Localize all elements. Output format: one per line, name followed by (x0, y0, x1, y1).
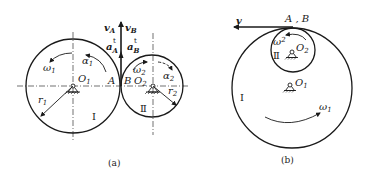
svg-text:r1: r1 (38, 94, 47, 107)
svg-text:vB: vB (125, 22, 137, 35)
point-B-label: B (123, 75, 131, 86)
O1-label: O (295, 77, 303, 88)
omega2-label: ω (273, 36, 281, 47)
omega2-arc-icon (286, 34, 306, 40)
gear1-outer-circle (232, 28, 352, 148)
omega1-arc-icon (50, 53, 72, 62)
gear1-roman-label: Ⅰ (92, 111, 96, 122)
aB-sup: t (134, 37, 137, 45)
point-A-label: A (107, 75, 115, 86)
O2-label: O (296, 42, 304, 53)
omega1-arc-icon (265, 113, 320, 123)
gear1-roman-label: Ⅰ (240, 92, 244, 103)
caption-a: (a) (108, 158, 120, 168)
caption-b: (b) (281, 155, 294, 165)
svg-text:ω1: ω1 (319, 101, 332, 114)
svg-text:O1: O1 (78, 73, 91, 86)
svg-text:ω2: ω2 (273, 36, 286, 47)
gear2-roman-label: Ⅱ (140, 103, 147, 114)
omega1-label: ω (43, 62, 51, 73)
aA-sup: t (113, 37, 116, 45)
gear-diagram: vA vB aA t aB t ω1 α1 O1 A B O2 ω2 α2 r1… (0, 0, 367, 177)
contact-AB-label: A , B (284, 13, 309, 24)
figure-a: vA vB aA t aB t ω1 α1 O1 A B O2 ω2 α2 r1… (17, 22, 190, 168)
svg-text:ω1: ω1 (43, 62, 56, 75)
figure-b: v A , B ω2 Ⅱ O2 O1 Ⅰ ω1 (b) (232, 13, 352, 165)
svg-text:O2: O2 (296, 42, 309, 55)
velocity-label: v (236, 15, 242, 26)
gear2-roman-label: Ⅱ (273, 50, 280, 61)
gear1-pivot-icon (65, 84, 80, 94)
O1-label: O (78, 73, 86, 84)
svg-text:O1: O1 (295, 77, 308, 90)
omega2-label: ω (133, 64, 141, 75)
omega1-label: ω (319, 101, 327, 112)
svg-text:vA: vA (104, 22, 116, 35)
svg-text:α2: α2 (163, 70, 175, 83)
alpha2-arc-icon (158, 62, 172, 70)
gear2-pivot-icon (145, 84, 160, 94)
tangential-accel-arrowhead (119, 51, 124, 58)
svg-text:r2: r2 (168, 85, 178, 98)
